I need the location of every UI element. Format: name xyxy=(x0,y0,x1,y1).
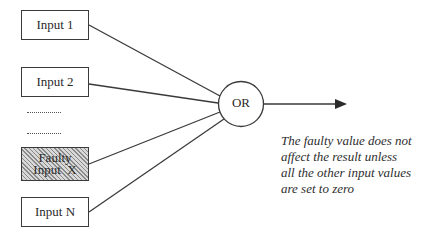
ellipsis-dots-1 xyxy=(27,112,61,113)
input-2-label: Input 2 xyxy=(36,76,73,88)
wire-input-x xyxy=(89,112,220,164)
caption-line-1: The faulty value does not xyxy=(281,133,433,149)
faulty-input-x-box: Faulty Input X xyxy=(21,147,89,181)
wire-input-1 xyxy=(89,25,220,96)
input-1-label: Input 1 xyxy=(36,19,73,31)
wire-input-2 xyxy=(89,84,218,103)
ellipsis-dots-2 xyxy=(27,133,61,134)
caption-line-2: affect the result unless xyxy=(281,149,433,165)
caption-line-4: are set to zero xyxy=(281,181,433,197)
faulty-input-label-line2: Input X xyxy=(33,164,76,176)
input-n-label: Input N xyxy=(35,206,75,218)
caption-text: The faulty value does not affect the res… xyxy=(281,133,433,197)
wire-input-n xyxy=(89,119,224,212)
input-1-box: Input 1 xyxy=(21,10,89,40)
or-gate-label: OR xyxy=(219,95,263,111)
input-n-box: Input N xyxy=(21,197,89,227)
caption-line-3: all the other input values xyxy=(281,165,433,181)
arrow-head-icon xyxy=(335,99,347,109)
input-2-box: Input 2 xyxy=(21,67,89,97)
